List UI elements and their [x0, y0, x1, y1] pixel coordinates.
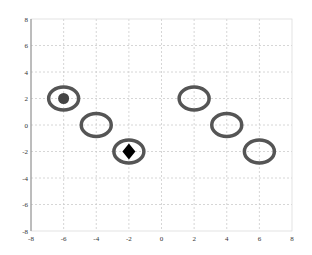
y-tick-label: -6	[22, 201, 28, 209]
x-tick-label: 4	[225, 235, 229, 243]
x-tick-label: 2	[192, 235, 196, 243]
x-tick-label: 0	[160, 235, 164, 243]
y-tick-label: -4	[22, 175, 28, 183]
x-axis-ticks: -8-6-4-202468	[28, 235, 294, 243]
start-dot-marker	[58, 93, 69, 104]
y-tick-label: 8	[25, 16, 29, 24]
x-tick-label: 6	[258, 235, 262, 243]
y-tick-label: -2	[22, 148, 28, 156]
y-axis-ticks: -8-6-4-202468	[22, 16, 28, 236]
y-tick-label: -8	[22, 228, 28, 236]
x-tick-label: -4	[93, 235, 99, 243]
x-tick-label: 8	[290, 235, 294, 243]
scatter-chart: -8-6-4-202468 -8-6-4-202468	[0, 0, 312, 255]
y-tick-label: 0	[25, 122, 29, 130]
x-tick-label: -8	[28, 235, 34, 243]
grid-lines	[31, 19, 292, 231]
y-tick-label: 2	[25, 95, 29, 103]
goal-diamond-marker	[122, 144, 135, 160]
x-tick-label: -2	[126, 235, 132, 243]
y-tick-label: 4	[25, 69, 29, 77]
y-tick-label: 6	[25, 42, 29, 50]
x-tick-label: -6	[61, 235, 67, 243]
